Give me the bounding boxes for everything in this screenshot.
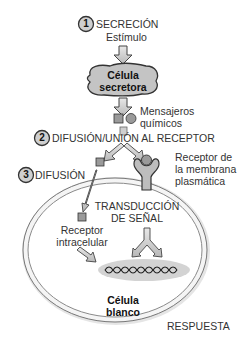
step-3-number: 3 — [20, 169, 32, 181]
binding-right-arrow-icon — [124, 143, 144, 161]
hormone-square-icon — [96, 158, 104, 166]
step-3-label: DIFUSIÓN — [35, 169, 85, 181]
stimulus-label: Estímulo — [106, 31, 147, 43]
response-label: RESPUESTA — [167, 320, 230, 332]
target-cell-label-line2: blanco — [98, 306, 148, 318]
intracellular-receptor-label-line1: Receptor — [54, 224, 110, 236]
diffusion-left-arrow-icon — [104, 143, 124, 161]
intracellular-receptor-icon — [78, 213, 86, 221]
membrane-receptor-label-line1: Receptor de — [175, 151, 232, 163]
secretory-cell-label-line1: Célula — [93, 69, 153, 81]
step-1-number: 1 — [80, 18, 92, 30]
nucleus-dna-icon — [98, 259, 190, 281]
messengers-label-line2: químicos — [140, 117, 182, 129]
step-2-number: 2 — [36, 132, 48, 144]
target-cell-label-line1: Célula — [98, 294, 148, 306]
intracellular-receptor-label-line2: intracelular — [54, 236, 110, 248]
step-1-label: SECRECIÓN — [96, 18, 158, 30]
membrane-receptor-label-line2: la membrana — [175, 163, 236, 175]
secretory-cell-label-line2: secretora — [93, 81, 153, 93]
messengers-label-line1: Mensajeros — [140, 105, 194, 117]
messenger-square-icon — [114, 114, 123, 123]
messenger-circle-icon — [126, 114, 136, 124]
transduction-label-line1: TRANSDUCCIÓN — [92, 200, 182, 212]
step-2-label: DIFUSIÓN/UNIÓN AL RECEPTOR — [52, 132, 215, 144]
stimulus-arrow-icon — [114, 46, 132, 64]
membrane-receptor-label-line3: plasmática — [175, 175, 225, 187]
secretion-arrow-icon — [114, 98, 132, 116]
transduction-label-line2: DE SEÑAL — [92, 212, 182, 224]
